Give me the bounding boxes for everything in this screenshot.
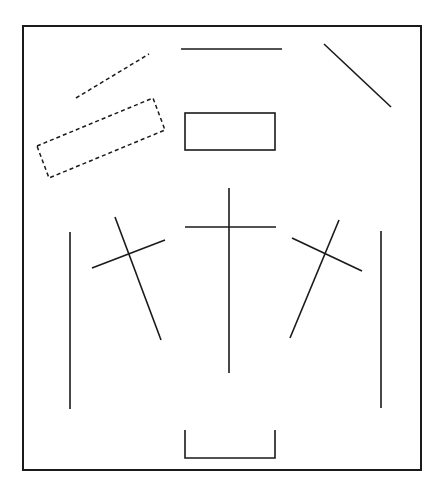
diagram-canvas <box>0 0 442 495</box>
top-right-diagonal-line <box>324 44 391 107</box>
shapes-group <box>37 44 391 458</box>
left-cross-long <box>115 217 161 340</box>
outer-frame <box>23 26 421 470</box>
dashed-rotated-rectangle <box>37 98 165 178</box>
dashed-line-top-left <box>76 54 149 98</box>
right-cross-long <box>290 220 339 338</box>
center-rectangle <box>185 113 275 150</box>
left-cross-short <box>92 240 165 268</box>
right-cross-short <box>292 238 362 271</box>
diagram-svg <box>0 0 442 495</box>
bottom-bracket <box>185 430 275 458</box>
